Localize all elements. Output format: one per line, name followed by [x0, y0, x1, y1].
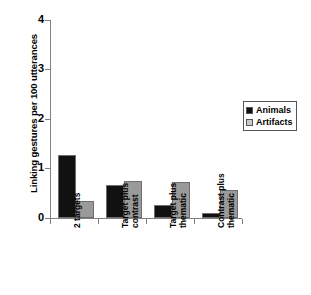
x-tick-mark-2	[146, 219, 147, 224]
legend-swatch-artifacts-icon	[246, 119, 253, 126]
y-tick-label-1: 1	[28, 162, 44, 173]
x-category-label-1: Target plus contrast	[120, 158, 140, 228]
legend-label-artifacts: Artifacts	[256, 118, 293, 127]
y-tick-label-3: 3	[28, 63, 44, 74]
legend-entry-artifacts: Artifacts	[246, 116, 293, 128]
bar-group-2-targets	[58, 20, 106, 218]
y-tick-label-2: 2	[28, 113, 44, 124]
x-tick-mark-4	[242, 219, 243, 224]
x-tick-mark-1	[98, 219, 99, 224]
x-category-label-3: Contrast plus thematic	[216, 158, 236, 228]
y-tick-label-0: 0	[28, 212, 44, 223]
x-category-label-2: Target plus thematic	[168, 158, 188, 228]
legend: Animals Artifacts	[243, 101, 297, 131]
x-category-label-0: 2 targets	[72, 158, 82, 228]
x-tick-mark-0	[50, 219, 51, 224]
x-tick-mark-3	[194, 219, 195, 224]
legend-entry-animals: Animals	[246, 104, 293, 116]
y-tick-label-4: 4	[28, 14, 44, 25]
legend-label-animals: Animals	[256, 106, 291, 115]
bar-chart: Linking gestures per 100 utterances 4 3 …	[0, 0, 311, 295]
legend-swatch-animals-icon	[246, 107, 253, 114]
y-axis-tick-labels: 4 3 2 1 0	[26, 0, 44, 295]
